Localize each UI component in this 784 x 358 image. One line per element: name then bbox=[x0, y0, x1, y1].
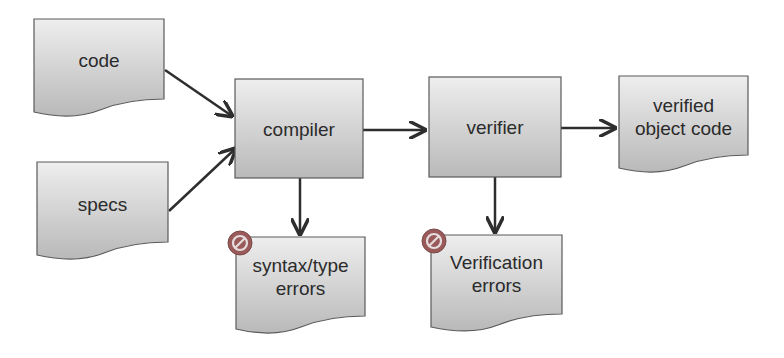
edge-code-to-compiler bbox=[165, 70, 232, 116]
syntax-errors-node-label: syntax/type errors bbox=[236, 252, 365, 302]
verification-errors-node-label: Verification errors bbox=[431, 249, 562, 299]
specs-node-label: specs bbox=[37, 184, 168, 224]
compiler-node-label: compiler bbox=[235, 109, 363, 149]
edge-specs-to-compiler bbox=[169, 149, 235, 211]
code-node-label: code bbox=[34, 40, 164, 80]
verified-object-code-node-label: verified object code bbox=[619, 92, 748, 142]
verifier-node-label: verifier bbox=[429, 107, 561, 147]
